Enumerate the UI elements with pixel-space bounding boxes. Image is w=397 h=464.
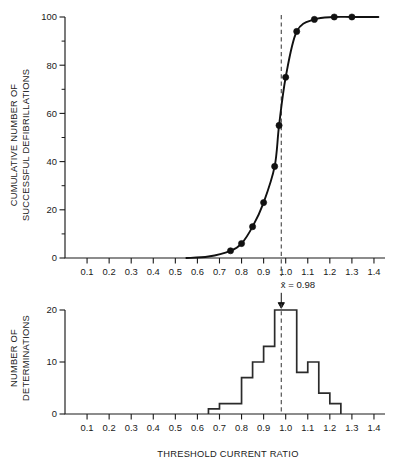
top-x-tick-label: 1.3 bbox=[345, 266, 358, 277]
mean-annotation-label: x̄ = 0.98 bbox=[281, 279, 315, 290]
top-y-axis-title-line2: SUCCESSFUL DEFIBRILLATIONS bbox=[21, 69, 31, 221]
bottom-y-tick-label: 0 bbox=[52, 408, 57, 419]
top-x-tick-label: 1.1 bbox=[301, 266, 314, 277]
histogram-outline bbox=[208, 310, 340, 414]
histogram-step-path bbox=[208, 310, 340, 414]
top-y-tick-label: 60 bbox=[47, 108, 57, 119]
curve-data-point bbox=[283, 74, 289, 80]
top-x-tick-label: 0.9 bbox=[257, 266, 270, 277]
top-x-tick-label: 0.3 bbox=[125, 266, 138, 277]
histogram-svg: NUMBER OF DETERMINATIONS 01020 0.10.20.3… bbox=[0, 290, 397, 464]
top-y-tick-label: 100 bbox=[41, 11, 57, 22]
curve-data-point bbox=[311, 16, 317, 22]
bottom-x-tick-label: 1.3 bbox=[345, 422, 358, 433]
top-y-tick-label: 0 bbox=[52, 252, 57, 263]
bottom-y-axis-title-line2: DETERMINATIONS bbox=[21, 315, 31, 401]
histogram-panel: NUMBER OF DETERMINATIONS 01020 0.10.20.3… bbox=[0, 290, 397, 464]
cumulative-curve-line bbox=[186, 17, 378, 258]
bottom-x-tick-label: 0.5 bbox=[169, 422, 182, 433]
bottom-x-tick-label: 0.1 bbox=[81, 422, 94, 433]
curve-data-point bbox=[272, 163, 278, 169]
bottom-x-tick-label: 0.3 bbox=[125, 422, 138, 433]
figure-root: CUMULATIVE NUMBER OF SUCCESSFUL DEFIBRIL… bbox=[0, 0, 397, 464]
bottom-y-axis-title-line1: NUMBER OF bbox=[9, 329, 19, 387]
cumulative-curve-path bbox=[186, 17, 378, 258]
cumulative-curve-svg: CUMULATIVE NUMBER OF SUCCESSFUL DEFIBRIL… bbox=[0, 0, 397, 290]
bottom-x-tick-label: 1.4 bbox=[367, 422, 380, 433]
bottom-y-tick-label: 20 bbox=[47, 304, 57, 315]
curve-data-point bbox=[331, 14, 337, 20]
bottom-x-tick-label: 1.1 bbox=[301, 422, 314, 433]
top-y-tick-labels: 020406080100 bbox=[41, 11, 57, 263]
bottom-x-axis-title: THRESHOLD CURRENT RATIO bbox=[157, 449, 298, 459]
top-axes bbox=[60, 17, 386, 264]
curve-data-point bbox=[227, 248, 233, 254]
top-x-tick-label: 0.6 bbox=[191, 266, 204, 277]
bottom-x-tick-label: 0.4 bbox=[147, 422, 160, 433]
bottom-x-tick-label: 1.2 bbox=[323, 422, 336, 433]
curve-data-point bbox=[294, 28, 300, 34]
bottom-axis-spines bbox=[65, 310, 385, 414]
cumulative-curve-panel: CUMULATIVE NUMBER OF SUCCESSFUL DEFIBRIL… bbox=[0, 0, 397, 290]
top-x-tick-labels: 0.10.20.30.40.50.60.70.80.91.01.11.21.31… bbox=[81, 266, 381, 277]
top-x-tick-label: 0.5 bbox=[169, 266, 182, 277]
top-x-tick-label: 0.4 bbox=[147, 266, 160, 277]
top-x-tick-label: 1.2 bbox=[323, 266, 336, 277]
top-x-tick-label: 0.7 bbox=[213, 266, 226, 277]
bottom-x-tick-label: 0.7 bbox=[213, 422, 226, 433]
bottom-x-tick-label: 0.6 bbox=[191, 422, 204, 433]
curve-data-point bbox=[261, 199, 267, 205]
curve-data-point bbox=[276, 122, 282, 128]
curve-data-point bbox=[238, 240, 244, 246]
top-axis-spines bbox=[65, 17, 385, 258]
curve-data-point bbox=[249, 224, 255, 230]
top-x-tick-label: 0.2 bbox=[103, 266, 116, 277]
top-x-tick-label: 0.8 bbox=[235, 266, 248, 277]
top-x-tick-label: 1.4 bbox=[367, 266, 380, 277]
bottom-x-tick-label: 0.2 bbox=[103, 422, 116, 433]
top-y-tick-label: 20 bbox=[47, 204, 57, 215]
top-y-axis-title-line1: CUMULATIVE NUMBER OF bbox=[9, 84, 19, 207]
top-y-tick-label: 80 bbox=[47, 60, 57, 71]
bottom-y-tick-label: 10 bbox=[47, 356, 57, 367]
bottom-x-tick-label: 0.8 bbox=[235, 422, 248, 433]
bottom-y-axis-title: NUMBER OF DETERMINATIONS bbox=[9, 315, 31, 401]
bottom-x-tick-labels: 0.10.20.30.40.50.60.70.80.91.01.11.21.31… bbox=[81, 422, 381, 433]
top-y-axis-title: CUMULATIVE NUMBER OF SUCCESSFUL DEFIBRIL… bbox=[9, 69, 31, 221]
top-y-tick-label: 40 bbox=[47, 156, 57, 167]
bottom-x-tick-label: 1.0 bbox=[279, 422, 292, 433]
bottom-y-tick-labels: 01020 bbox=[47, 304, 57, 419]
bottom-x-tick-label: 0.9 bbox=[257, 422, 270, 433]
top-x-tick-label: 0.1 bbox=[81, 266, 94, 277]
curve-data-point bbox=[349, 14, 355, 20]
